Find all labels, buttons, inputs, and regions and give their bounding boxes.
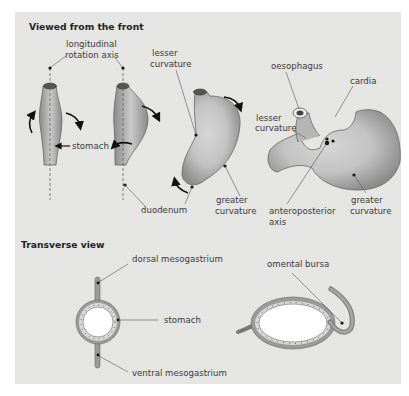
label-omental-bursa: omental bursa bbox=[267, 259, 329, 269]
label-ventral-mesogastrium: ventral mesogastrium bbox=[132, 368, 227, 378]
label-stomach-front: stomach bbox=[72, 141, 109, 151]
label-greater-curvature-1b: curvature bbox=[215, 206, 257, 216]
label-dorsal-mesogastrium: dorsal mesogastrium bbox=[132, 254, 223, 264]
label-lesser-curvature-1: lesser bbox=[152, 48, 178, 58]
label-cardia: cardia bbox=[350, 76, 376, 86]
label-oesophagus: oesophagus bbox=[271, 61, 323, 71]
label-anteroposterior: anteroposterior bbox=[269, 206, 336, 216]
label-stomach-transverse: stomach bbox=[164, 315, 201, 325]
label-greater-curvature-2b: curvature bbox=[350, 206, 392, 216]
label-rotation-axis: rotation axis bbox=[65, 50, 119, 60]
transverse-right: omental bursa bbox=[238, 259, 352, 349]
transverse-left: dorsal mesogastrium stomach ventral meso… bbox=[76, 254, 227, 378]
label-longitudinal: longitudinal bbox=[66, 39, 117, 49]
stomach-stage-2 bbox=[114, 66, 158, 200]
stomach-stage-3 bbox=[175, 89, 240, 193]
label-greater-curvature-1: greater bbox=[216, 195, 248, 205]
stomach-rotation-diagram: Viewed from the front Transverse view bbox=[0, 0, 409, 396]
label-lesser-curvature-2: lesser bbox=[256, 113, 282, 123]
label-greater-curvature-2: greater bbox=[351, 195, 383, 205]
label-lesser-curvature-2b: curvature bbox=[255, 123, 297, 133]
front-view-title: Viewed from the front bbox=[29, 21, 144, 32]
transverse-view-title: Transverse view bbox=[21, 239, 105, 250]
stomach-stage-4 bbox=[268, 108, 400, 190]
label-lesser-curvature-1b: curvature bbox=[150, 59, 192, 69]
label-duodenum: duodenum bbox=[141, 205, 187, 215]
stomach-stage-1 bbox=[30, 66, 80, 200]
label-anteroposterior-b: axis bbox=[269, 217, 287, 227]
